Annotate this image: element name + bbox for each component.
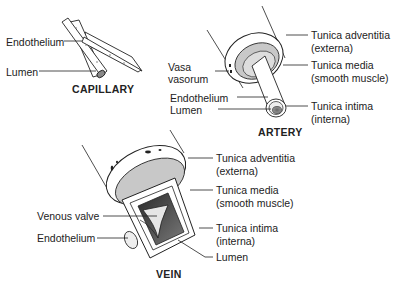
vein-adventitia-label-line2: (externa): [216, 165, 258, 178]
vein-intima-label-line2: (interna): [216, 235, 255, 248]
artery-vasa-label-line2: vasorum: [168, 73, 208, 86]
artery-vasa-label-line1: Vasa: [168, 61, 191, 74]
vein-title: VEIN: [156, 268, 182, 280]
vein-lumen-label: Lumen: [216, 251, 248, 264]
artery-intima-label-line2: (interna): [311, 113, 350, 126]
artery-adventitia-label-line1: Tunica adventitia: [311, 29, 390, 42]
artery-endothelium-label: Endothelium: [170, 92, 228, 105]
capillary-title: CAPILLARY: [72, 83, 134, 95]
artery-title: ARTERY: [258, 126, 303, 138]
artery-adventitia-label-line2: (externa): [311, 42, 353, 55]
vein-endothelium-label: Endothelium: [37, 232, 95, 245]
capillary-endothelium-label: Endothelium: [6, 36, 64, 49]
vein-media-label-line2: (smooth muscle): [216, 197, 294, 210]
artery-media-label-line2: (smooth muscle): [311, 72, 389, 85]
capillary-lumen-label: Lumen: [6, 66, 38, 79]
blood-vessel-diagram: Endothelium Lumen CAPILLARY Vasa vasorum…: [0, 0, 397, 283]
vein-adventitia-label-line1: Tunica adventitia: [216, 152, 295, 165]
vein-media-label-line1: Tunica media: [216, 184, 279, 197]
vein-valve-label: Venous valve: [37, 210, 99, 223]
artery-intima-label-line1: Tunica intima: [311, 100, 373, 113]
vein-intima-label-line1: Tunica intima: [216, 222, 278, 235]
vein-illustration: [82, 130, 213, 258]
artery-lumen-label: Lumen: [170, 104, 202, 117]
artery-media-label-line1: Tunica media: [311, 59, 374, 72]
capillary-illustration: [39, 18, 142, 79]
